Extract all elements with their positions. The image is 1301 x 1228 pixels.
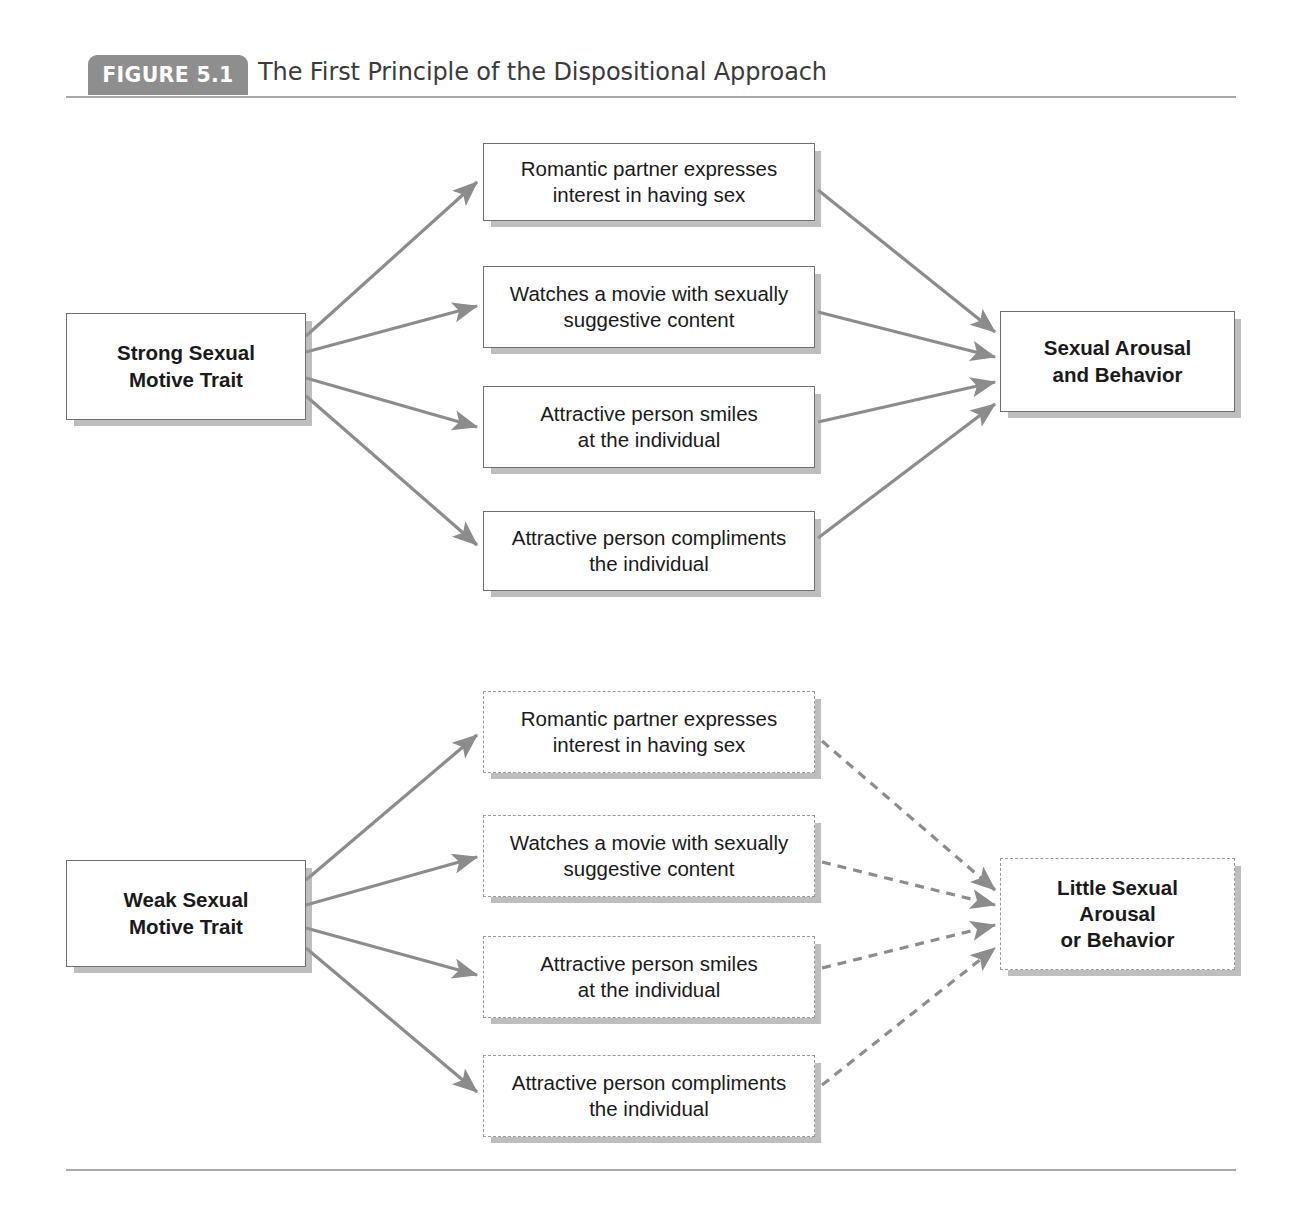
figure-number-label: FIGURE 5.1: [102, 63, 233, 87]
node-label: Romantic partner expresses interest in h…: [511, 706, 787, 758]
node-line: Strong Sexual: [117, 341, 255, 364]
node-label: Attractive person smiles at the individu…: [530, 951, 768, 1003]
node-line: and Behavior: [1053, 363, 1183, 386]
figure-number-badge: FIGURE 5.1: [88, 55, 248, 95]
node-label: Strong Sexual Motive Trait: [107, 340, 265, 392]
node-line: at the individual: [578, 428, 720, 451]
node-line: or Behavior: [1061, 928, 1175, 951]
node-little-sexual-arousal-or-behavior[interactable]: Little Sexual Arousal or Behavior: [1000, 858, 1235, 970]
node-bottom-situation-1[interactable]: Romantic partner expresses interest in h…: [483, 691, 815, 773]
node-line: Watches a movie with sexually: [510, 282, 788, 305]
header-divider: [66, 96, 1236, 98]
node-line: Attractive person compliments: [512, 526, 787, 549]
node-line: Motive Trait: [129, 368, 243, 391]
node-label: Weak Sexual Motive Trait: [114, 887, 259, 939]
node-line: Sexual Arousal: [1044, 336, 1191, 359]
node-top-situation-2[interactable]: Watches a movie with sexually suggestive…: [483, 266, 815, 348]
node-strong-sexual-motive-trait[interactable]: Strong Sexual Motive Trait: [66, 313, 306, 420]
node-line: Arousal: [1079, 902, 1155, 925]
node-label: Attractive person smiles at the individu…: [530, 401, 768, 453]
node-line: Romantic partner expresses: [521, 157, 777, 180]
node-label: Attractive person compliments the indivi…: [502, 1070, 797, 1122]
node-top-situation-3[interactable]: Attractive person smiles at the individu…: [483, 386, 815, 468]
node-label: Attractive person compliments the indivi…: [502, 525, 797, 577]
node-label: Romantic partner expresses interest in h…: [511, 156, 787, 208]
node-bottom-situation-2[interactable]: Watches a movie with sexually suggestive…: [483, 815, 815, 897]
arrows-bottom-situations-to-outcome: [822, 741, 995, 1085]
node-sexual-arousal-and-behavior[interactable]: Sexual Arousal and Behavior: [1000, 311, 1235, 412]
arrows-top-situations-to-outcome: [818, 190, 995, 538]
node-label: Watches a movie with sexually suggestive…: [500, 830, 798, 882]
arrows-top-trait-to-situations: [306, 182, 477, 545]
node-line: the individual: [589, 1097, 709, 1120]
node-top-situation-1[interactable]: Romantic partner expresses interest in h…: [483, 143, 815, 221]
node-label: Little Sexual Arousal or Behavior: [1047, 875, 1188, 954]
node-line: Attractive person compliments: [512, 1071, 787, 1094]
node-line: interest in having sex: [553, 183, 746, 206]
figure-title: The First Principle of the Dispositional…: [258, 58, 827, 86]
node-top-situation-4[interactable]: Attractive person compliments the indivi…: [483, 511, 815, 591]
node-line: Watches a movie with sexually: [510, 831, 788, 854]
node-line: Little Sexual: [1057, 876, 1178, 899]
node-bottom-situation-3[interactable]: Attractive person smiles at the individu…: [483, 936, 815, 1018]
node-line: suggestive content: [564, 308, 735, 331]
node-line: Weak Sexual: [124, 888, 249, 911]
node-line: Attractive person smiles: [540, 402, 758, 425]
node-line: interest in having sex: [553, 733, 746, 756]
node-line: the individual: [589, 552, 709, 575]
node-label: Watches a movie with sexually suggestive…: [500, 281, 798, 333]
node-line: Romantic partner expresses: [521, 707, 777, 730]
node-line: at the individual: [578, 978, 720, 1001]
node-bottom-situation-4[interactable]: Attractive person compliments the indivi…: [483, 1055, 815, 1137]
node-label: Sexual Arousal and Behavior: [1034, 335, 1201, 387]
arrows-bottom-trait-to-situations: [306, 735, 477, 1092]
footer-divider: [66, 1169, 1236, 1171]
figure-header: FIGURE 5.1 The First Principle of the Di…: [0, 0, 1301, 110]
node-weak-sexual-motive-trait[interactable]: Weak Sexual Motive Trait: [66, 860, 306, 967]
node-line: Attractive person smiles: [540, 952, 758, 975]
node-line: suggestive content: [564, 857, 735, 880]
node-line: Motive Trait: [129, 915, 243, 938]
